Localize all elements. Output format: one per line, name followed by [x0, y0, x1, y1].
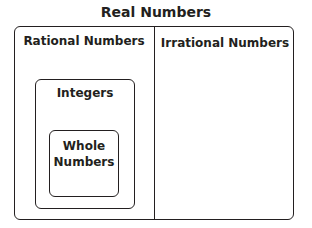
- whole-label-line2: Numbers: [49, 154, 119, 170]
- rational-numbers-label: Rational Numbers: [14, 34, 154, 48]
- whole-label-line1: Whole: [49, 138, 119, 154]
- divider-line: [154, 27, 155, 220]
- integers-label: Integers: [35, 86, 135, 100]
- diagram-title: Real Numbers: [0, 4, 312, 20]
- irrational-numbers-label: Irrational Numbers: [155, 36, 295, 50]
- whole-numbers-label: Whole Numbers: [49, 138, 119, 170]
